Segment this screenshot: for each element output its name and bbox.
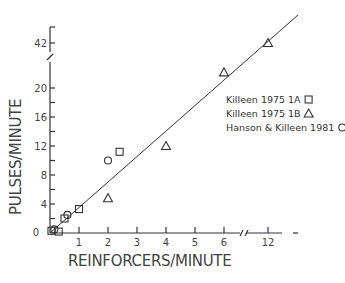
triangle-point <box>220 68 229 76</box>
x-tick-label: 3 <box>134 237 140 248</box>
y-axis-title: PULSES/MINUTE <box>7 99 25 215</box>
scatter-chart: 0123456124812162042 REINFORCERS/MINUTE P… <box>0 0 345 283</box>
x-tick-label: 0 <box>33 227 39 238</box>
y-tick-label: 20 <box>34 83 47 94</box>
triangle-point <box>264 39 273 47</box>
data-marks <box>48 39 273 236</box>
x-tick-label: 1 <box>76 237 82 248</box>
legend-label: Hanson & Killeen 1981 <box>226 122 334 133</box>
x-tick-label: 12 <box>262 237 275 248</box>
x-tick-label: 4 <box>163 237 169 248</box>
x-axis-title: REINFORCERS/MINUTE <box>68 252 231 270</box>
legend-square-marker <box>305 96 312 103</box>
y-axis-break <box>47 54 53 60</box>
square-point <box>116 148 123 155</box>
legend-circle-marker <box>339 124 345 131</box>
square-point <box>55 228 62 235</box>
y-tick-label: 4 <box>41 199 47 210</box>
legend-label: Killeen 1975 1A <box>226 94 301 105</box>
y-tick-label: 12 <box>34 141 47 152</box>
y-tick-label: 42 <box>34 38 47 49</box>
y-tick-label: 16 <box>34 112 47 123</box>
legend: Killeen 1975 1AKilleen 1975 1BHanson & K… <box>226 94 345 133</box>
x-tick-label: 2 <box>105 237 111 248</box>
x-tick-label: 5 <box>192 237 198 248</box>
x-tick-label: 6 <box>221 237 227 248</box>
legend-label: Killeen 1975 1B <box>226 108 301 119</box>
legend-triangle-marker <box>304 109 313 117</box>
circle-point <box>105 157 112 164</box>
triangle-point <box>162 142 171 150</box>
triangle-point <box>104 194 113 202</box>
y-tick-label: 8 <box>41 170 47 181</box>
